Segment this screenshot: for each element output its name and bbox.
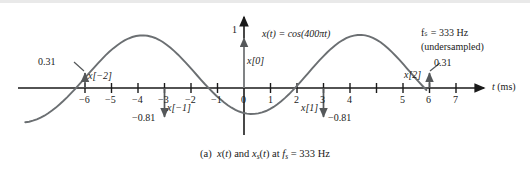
value-label--081-right: −0.81 [328,113,351,123]
x-tick-label-7: 7 [453,95,458,105]
figure-caption: (a) x(t) and xs(t) at fs = 333 Hz [0,148,530,161]
sample-label-x-0: x[0] [247,56,264,66]
x-axis-label: t (ms) [492,82,516,92]
y-tick-label-1: 1 [232,25,237,35]
value-label-031-left: 0.31 [38,57,56,67]
value-label--081-left: −0.81 [132,113,155,123]
value-label-031-right: 0.31 [434,58,452,68]
x-tick-label-0: 0 [241,95,246,105]
undersampled-note: (undersampled) [421,42,484,52]
x-tick-label-4: 4 [347,95,352,105]
sample-label-x-2: x[2] [404,70,421,80]
x-axis [18,83,484,93]
sample-label-x-minus-2: x[−2] [88,71,112,81]
sampling-rate-label: fₛ = 333 Hz [421,28,468,38]
figure-container: −6 −5 −4 −3 −2 −1 0 1 2 3 4 5 6 7 1 t (m… [0,0,530,175]
equation-label: x(t) = cos(400πt) [262,29,330,39]
x-tick-label--1: −1 [211,95,222,105]
x-tick-label-3: 3 [320,95,325,105]
sample-label-x-minus-1: x[−1] [167,103,191,113]
x-tick-label-2: 2 [294,95,299,105]
x-tick-label--6: −6 [79,95,90,105]
sample-label-x-1: x[1] [301,103,318,113]
x-tick-label--5: −5 [105,95,116,105]
x-tick-label-1: 1 [268,95,273,105]
caption-prefix: (a) [200,148,212,159]
x-tick-label--4: −4 [132,95,143,105]
leader-line-left-031 [74,62,84,71]
x-tick-label-6: 6 [426,95,431,105]
x-tick-label-5: 5 [400,95,405,105]
